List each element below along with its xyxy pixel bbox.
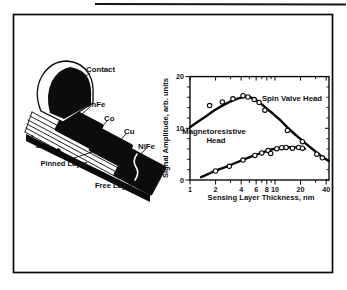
mr-data-point [275, 147, 279, 151]
mr-data-point [227, 164, 231, 168]
figure-frame [14, 15, 333, 273]
spin-valve-data-point [207, 103, 211, 107]
mr-data-point [300, 146, 304, 150]
mr-data-point [290, 146, 294, 150]
spin-valve-data-point [231, 97, 235, 101]
x-tick-label: 40 [322, 185, 330, 194]
y-tick-label: 0 [180, 176, 184, 185]
mnfe-label: MnFe [85, 100, 106, 109]
free-layer-label: Free Layer [95, 181, 133, 190]
spin-valve-data-point [315, 152, 319, 156]
mr-data-point [241, 158, 245, 162]
figure-canvas: Contact MnFe Co Cu NiFe I Pinned Layer F… [0, 0, 347, 290]
scanned-figure-page: Contact MnFe Co Cu NiFe I Pinned Layer F… [0, 0, 347, 290]
nife-label: NiFe [138, 142, 156, 151]
cu-label: Cu [124, 127, 135, 136]
signal-chart: 1246810204001020 Signal Amplitude, arb. … [161, 72, 331, 201]
spin-valve-data-point [246, 95, 250, 99]
spin-valve-data-point [257, 100, 261, 104]
contact-label: Contact [86, 65, 115, 74]
spin-valve-data-point [285, 128, 289, 132]
mr-data-point [260, 151, 264, 155]
spin-valve-data-point [300, 140, 304, 144]
spin-valve-data-point [252, 97, 256, 101]
current-label: I [31, 134, 33, 143]
y-axis-label: Signal Amplitude, arb. units [161, 78, 170, 178]
mr-data-point [280, 146, 284, 150]
mr-data-point [253, 153, 257, 157]
spin-valve-data-point [263, 108, 267, 112]
scan-artifact-line [95, 4, 346, 5]
spin-valve-series-label: Spin Valve Head [262, 94, 322, 103]
device-diagram: Contact MnFe Co Cu NiFe I Pinned Layer F… [25, 61, 164, 202]
x-tick-label: 1 [188, 185, 192, 194]
spin-valve-data-point [241, 94, 245, 98]
mr-data-point [284, 145, 288, 149]
pinned-layer-label: Pinned Layer [40, 159, 87, 168]
x-axis-label: Sensing Layer Thickness, nm [208, 193, 315, 202]
mr-series-label-line2: Head [206, 136, 225, 145]
y-tick-label: 20 [176, 72, 184, 81]
mr-data-point [269, 151, 273, 155]
mr-data-point [213, 169, 217, 173]
co-label: Co [104, 114, 115, 123]
spin-valve-data-point [220, 100, 224, 104]
spin-valve-data-point [320, 156, 324, 160]
